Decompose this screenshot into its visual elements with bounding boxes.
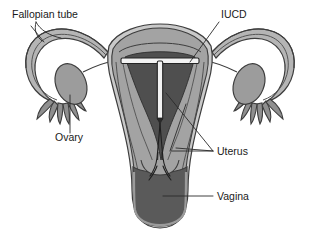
label-vagina: Vagina — [217, 190, 249, 202]
vagina-lumen — [133, 167, 187, 226]
label-ovary: Ovary — [55, 131, 84, 143]
anatomy-svg: Fallopian tube IUCD Ovary Uterus Vagina — [0, 0, 320, 236]
label-uterus: Uterus — [217, 145, 248, 157]
iucd-vertical-stem — [157, 61, 162, 120]
label-fallopian-tube: Fallopian tube — [12, 8, 78, 20]
anatomy-diagram: Fallopian tube IUCD Ovary Uterus Vagina — [0, 0, 320, 236]
label-iucd: IUCD — [221, 8, 247, 20]
